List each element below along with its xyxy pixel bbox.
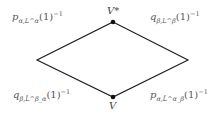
edge-label-bottom-left: qβ,L̃^β_α(1)−1 xyxy=(13,89,70,103)
edge-superscript: −1 xyxy=(190,10,200,18)
edge-value: (1) xyxy=(46,89,60,100)
top-vertex-dot xyxy=(111,20,116,25)
edge-subscript: α,L̃^α_β xyxy=(156,95,184,103)
bottom-vertex-dot xyxy=(111,95,116,100)
edge-subscript: β,L^β xyxy=(156,17,175,25)
bottom-vertex-text: V xyxy=(109,100,116,111)
edge-label-top-right: qβ,L^β(1)−1 xyxy=(150,11,200,25)
edge-superscript: −1 xyxy=(53,10,63,18)
edge-subscript: α,L^α xyxy=(18,17,39,25)
edge-label-top-left: pα,L^α(1)−1 xyxy=(12,11,63,25)
edge-superscript: −1 xyxy=(61,88,71,96)
edge-subscript: β,L̃^β_α xyxy=(19,95,46,103)
top-vertex-text: V* xyxy=(107,5,119,16)
edge-value: (1) xyxy=(176,11,190,22)
diamond-shape xyxy=(37,22,188,97)
edge-value: (1) xyxy=(39,11,53,22)
edge-value: (1) xyxy=(184,89,198,100)
edge-superscript: −1 xyxy=(198,88,208,96)
edge-label-bottom-right: pα,L̃^α_β(1)−1 xyxy=(150,89,208,103)
top-vertex-label: V* xyxy=(107,6,119,16)
bottom-vertex-label: V xyxy=(109,101,116,111)
